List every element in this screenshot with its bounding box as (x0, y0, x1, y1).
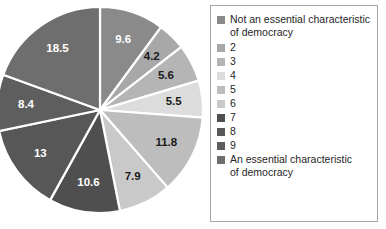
legend-item-label: Not an essential characteristic of democ… (230, 13, 370, 39)
legend-swatch-icon (217, 128, 225, 136)
pie-slices-group (0, 7, 203, 213)
pie-slice-value-label: 8.4 (18, 98, 35, 110)
legend-item[interactable]: Not an essential characteristic of democ… (217, 13, 373, 39)
pie-slice-value-label: 5.5 (166, 95, 183, 107)
legend-swatch-icon (217, 86, 225, 94)
legend-item[interactable]: 5 (217, 83, 373, 96)
legend-item[interactable]: 3 (217, 55, 373, 68)
legend-item-label: 6 (230, 97, 236, 110)
legend-item-label: 8 (230, 125, 236, 138)
legend-item-label: 3 (230, 55, 236, 68)
pie-slice-value-label: 4.2 (144, 50, 160, 62)
legend-item[interactable]: 4 (217, 69, 373, 82)
legend-swatch-icon (217, 72, 225, 80)
legend-swatch-icon (217, 114, 225, 122)
legend-item-label: 7 (230, 111, 236, 124)
legend-item-label: 4 (230, 69, 236, 82)
legend-item-label: 2 (230, 41, 236, 54)
legend-item-label: An essential characteristic of democracy (230, 153, 352, 179)
pie-slice-value-label: 5.6 (158, 69, 174, 81)
legend-item-label: 5 (230, 83, 236, 96)
legend-item[interactable]: An essential characteristic of democracy (217, 153, 373, 179)
pie-chart-figure: 9.64.25.65.511.87.910.6138.418.5 Not an … (0, 0, 386, 229)
pie-slice-value-label: 18.5 (46, 42, 69, 54)
pie-svg: 9.64.25.65.511.87.910.6138.418.5 (0, 0, 206, 229)
legend-item-label: 9 (230, 139, 236, 152)
pie-slice-value-label: 13 (34, 147, 47, 159)
pie-slice-value-label: 7.9 (125, 170, 141, 182)
chart-legend: Not an essential characteristic of democ… (210, 5, 378, 222)
legend-item[interactable]: 7 (217, 111, 373, 124)
pie-slice-value-label: 10.6 (77, 176, 99, 188)
legend-swatch-icon (217, 58, 225, 66)
legend-swatch-icon (217, 16, 225, 24)
legend-swatch-icon (217, 156, 225, 164)
legend-item[interactable]: 8 (217, 125, 373, 138)
legend-item[interactable]: 2 (217, 41, 373, 54)
legend-item[interactable]: 9 (217, 139, 373, 152)
pie-slice-value-label: 9.6 (115, 33, 131, 45)
legend-swatch-icon (217, 100, 225, 108)
legend-item[interactable]: 6 (217, 97, 373, 110)
pie-slice-value-label: 11.8 (155, 136, 177, 148)
pie-plot-area: 9.64.25.65.511.87.910.6138.418.5 (0, 0, 206, 229)
legend-swatch-icon (217, 142, 225, 150)
legend-swatch-icon (217, 44, 225, 52)
